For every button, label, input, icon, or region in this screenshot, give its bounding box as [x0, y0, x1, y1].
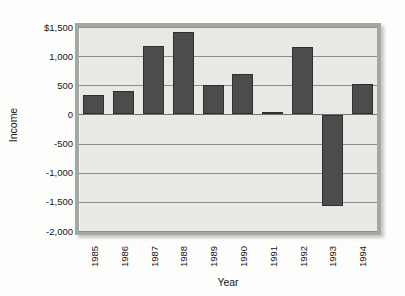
bar-1985: [83, 95, 104, 114]
x-axis-title: Year: [79, 276, 377, 288]
gridline-500: [79, 85, 377, 86]
x-tick-label-1992: 1992: [297, 239, 308, 275]
bar-1991: [262, 112, 283, 114]
x-tick-label-1988: 1988: [178, 239, 189, 275]
x-tick-label-1993: 1993: [327, 239, 338, 275]
y-tick-label--500: -500: [17, 138, 73, 149]
bar-1993: [322, 115, 343, 205]
y-tick-label--1500: -1,500: [17, 196, 73, 207]
chart-frame: [75, 23, 381, 235]
x-tick-label-1987: 1987: [148, 239, 159, 275]
bar-1986: [113, 91, 134, 114]
bar-1992: [292, 47, 313, 115]
y-tick-label-1000: 1,000: [17, 51, 73, 62]
y-tick-label--1000: -1,000: [17, 167, 73, 178]
bar-1990: [232, 74, 253, 115]
y-tick-label-0: 0: [17, 109, 73, 120]
x-tick-label-1994: 1994: [357, 239, 368, 275]
y-tick-label-500: 500: [17, 80, 73, 91]
gridline--2000: [79, 231, 377, 232]
bar-1987: [143, 46, 164, 115]
x-tick-label-1991: 1991: [267, 239, 278, 275]
y-tick-label--2000: -2,000: [17, 226, 73, 237]
x-tick-label-1989: 1989: [208, 239, 219, 275]
bar-1994: [352, 84, 373, 114]
gridline-1500: [79, 27, 377, 28]
x-tick-label-1986: 1986: [118, 239, 129, 275]
x-tick-label-1985: 1985: [88, 239, 99, 275]
bar-1989: [203, 85, 224, 114]
x-tick-label-1990: 1990: [237, 239, 248, 275]
income-by-year-chart: Income $1,5001,0005000-500-1,000-1,500-2…: [0, 0, 405, 296]
plot-area: [79, 27, 377, 231]
gridline-1000: [79, 56, 377, 57]
y-tick-label-1500: $1,500: [17, 22, 73, 33]
bar-1988: [173, 32, 194, 115]
